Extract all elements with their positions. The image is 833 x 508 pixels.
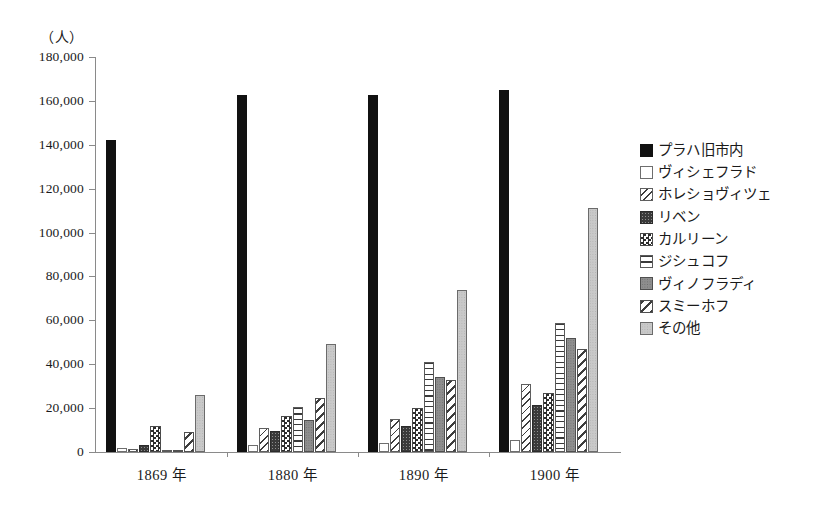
bar (315, 398, 325, 452)
y-tick-label: 180,000 (8, 50, 84, 64)
legend-swatch-midgray-icon (640, 277, 653, 290)
y-tick-mark (89, 408, 96, 409)
legend-item: ジシュコフ (640, 250, 830, 272)
bar (510, 440, 520, 452)
y-tick-mark (89, 145, 96, 146)
bar (259, 428, 269, 452)
legend-swatch-diag-light-icon (640, 188, 653, 201)
legend-swatch-white-icon (640, 166, 653, 179)
y-tick-label: 160,000 (8, 94, 84, 108)
bar (424, 362, 434, 452)
bar (237, 95, 247, 452)
legend-item: スミーホフ (640, 295, 830, 317)
x-group-separator (358, 452, 359, 457)
legend-label: プラハ旧市内 (658, 143, 743, 158)
y-tick-label: 0 (8, 445, 84, 459)
y-tick-mark (89, 320, 96, 321)
y-tick-mark (89, 57, 96, 58)
bar (326, 344, 336, 452)
bar (588, 208, 598, 452)
legend-label: ヴィシェフラド (658, 165, 757, 180)
y-tick-label: 20,000 (8, 401, 84, 415)
legend-item: ヴィノフラディ (640, 273, 830, 295)
bar (128, 449, 138, 452)
bar (566, 338, 576, 452)
bar (106, 140, 116, 452)
legend-item: ヴィシェフラド (640, 161, 830, 183)
x-axis-label: 1869 年 (102, 463, 222, 484)
y-tick-label: 40,000 (8, 357, 84, 371)
bar (173, 450, 183, 452)
y-tick-label: 80,000 (8, 269, 84, 283)
y-tick-mark (89, 276, 96, 277)
bar (401, 426, 411, 452)
legend-label: カルリーン (658, 232, 728, 247)
x-axis-label: 1890 年 (364, 463, 484, 484)
bar (577, 349, 587, 452)
x-group-separator (489, 452, 490, 457)
bar (195, 395, 205, 452)
bar (457, 290, 467, 452)
y-tick-mark (89, 189, 96, 190)
y-tick-mark (89, 452, 96, 453)
legend-item: その他 (640, 317, 830, 339)
bar (543, 393, 553, 452)
y-tick-label: 100,000 (8, 226, 84, 240)
bar (270, 431, 280, 452)
y-tick-mark (89, 101, 96, 102)
legend-swatch-hline-icon (640, 255, 653, 268)
bar (390, 419, 400, 452)
bar (379, 443, 389, 452)
legend-item: リベン (640, 206, 830, 228)
x-axis-label: 1900 年 (495, 463, 615, 484)
chart-legend: プラハ旧市内ヴィシェフラドホレショヴィツェリベンカルリーンジシュコフヴィノフラデ… (640, 139, 830, 340)
plot-area (96, 57, 620, 452)
legend-swatch-diag-wide-icon (640, 300, 653, 313)
legend-item: ホレショヴィツェ (640, 184, 830, 206)
bar (150, 426, 160, 452)
bar (184, 432, 194, 452)
legend-label: ヴィノフラディ (658, 277, 756, 292)
bar (162, 450, 172, 452)
legend-item: カルリーン (640, 228, 830, 250)
bar (435, 377, 445, 452)
bar (532, 405, 542, 452)
bar (248, 445, 258, 452)
bar (412, 408, 422, 452)
legend-label: リベン (658, 210, 701, 225)
bar (555, 323, 565, 452)
legend-label: その他 (658, 321, 701, 336)
bar (368, 95, 378, 452)
legend-label: ジシュコフ (658, 254, 729, 269)
bar (446, 380, 456, 452)
y-tick-label: 60,000 (8, 313, 84, 327)
y-tick-mark (89, 233, 96, 234)
bar (281, 416, 291, 452)
legend-label: スミーホフ (658, 299, 729, 314)
bar-chart: （人） 180,000160,000140,000120,000100,0008… (0, 0, 833, 508)
y-tick-mark (89, 364, 96, 365)
x-group-separator (227, 452, 228, 457)
legend-swatch-solid-black-icon (640, 144, 653, 157)
bar (304, 420, 314, 452)
y-tick-label: 140,000 (8, 138, 84, 152)
legend-item: プラハ旧市内 (640, 139, 830, 161)
y-axis-unit-label: （人） (40, 26, 84, 46)
legend-swatch-lightgray-icon (640, 322, 653, 335)
x-axis-label: 1880 年 (233, 463, 353, 484)
y-tick-label: 120,000 (8, 182, 84, 196)
bar (499, 90, 509, 452)
legend-label: ホレショヴィツェ (658, 187, 772, 202)
legend-swatch-checker-icon (640, 233, 653, 246)
bar (293, 407, 303, 452)
bar (139, 445, 149, 452)
bar (117, 448, 127, 452)
bar (521, 384, 531, 452)
legend-swatch-dark-dot-icon (640, 211, 653, 224)
cropped-text-sliver (100, 0, 550, 10)
